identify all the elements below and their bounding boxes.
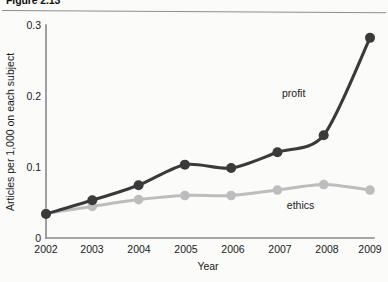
data-point-ethics-2009[interactable] xyxy=(365,185,375,195)
data-point-profit-2008[interactable] xyxy=(319,130,329,140)
series-layer xyxy=(41,33,375,219)
header-divider xyxy=(2,10,386,13)
x-tick-label-2002: 2002 xyxy=(34,243,58,255)
x-tick-label-2008: 2008 xyxy=(315,243,339,255)
data-point-profit-2006[interactable] xyxy=(226,163,236,173)
x-tick-label-2006: 2006 xyxy=(221,243,245,255)
line-chart: 0.3 0.2 0.1 0 Articles per 1,000 on each… xyxy=(0,14,388,282)
data-point-ethics-2007[interactable] xyxy=(273,185,283,195)
y-axis-title: Articles per 1,000 on each subject xyxy=(4,53,16,211)
x-tick-label-2003: 2003 xyxy=(80,243,104,255)
chart-plot-area: 0.3 0.2 0.1 0 Articles per 1,000 on each… xyxy=(0,14,388,282)
data-point-ethics-2004[interactable] xyxy=(134,195,144,205)
data-point-ethics-2006[interactable] xyxy=(226,191,236,201)
x-tick-label-2005: 2005 xyxy=(174,243,198,255)
y-tick-label-0.3: 0.3 xyxy=(26,19,41,31)
x-tick-label-2007: 2007 xyxy=(268,243,292,255)
x-tick-label-2004: 2004 xyxy=(127,243,151,255)
x-axis-title: Year xyxy=(197,260,219,272)
data-point-ethics-2005[interactable] xyxy=(180,191,190,201)
data-point-profit-2007[interactable] xyxy=(272,147,282,157)
y-tick-label-0.2: 0.2 xyxy=(26,90,41,102)
data-point-profit-2005[interactable] xyxy=(180,160,190,170)
data-point-profit-2002[interactable] xyxy=(41,209,51,219)
series-label-profit: profit xyxy=(282,87,305,99)
data-point-profit-2003[interactable] xyxy=(87,195,97,205)
y-tick-label-0.1: 0.1 xyxy=(26,161,41,173)
data-point-profit-2004[interactable] xyxy=(134,180,144,190)
x-tick-label-2009: 2009 xyxy=(358,243,382,255)
data-point-profit-2009[interactable] xyxy=(365,33,375,43)
data-point-ethics-2008[interactable] xyxy=(319,180,329,190)
figure-header: Figure 2.13 xyxy=(0,0,388,8)
figure-number: Figure 2.13 xyxy=(6,0,60,6)
series-label-ethics: ethics xyxy=(287,199,314,211)
